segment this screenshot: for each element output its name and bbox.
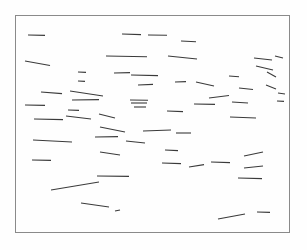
- line-segment: [238, 178, 262, 179]
- line-segment: [211, 162, 230, 163]
- line-segment: [167, 111, 183, 112]
- line-segment: [34, 119, 63, 120]
- line-segment: [138, 84, 153, 85]
- line-segment: [131, 75, 158, 76]
- line-segment: [165, 150, 178, 151]
- figure-container: [0, 0, 307, 250]
- orientation-field-plot: [0, 0, 307, 250]
- line-segment: [162, 163, 181, 164]
- line-segment: [122, 34, 141, 35]
